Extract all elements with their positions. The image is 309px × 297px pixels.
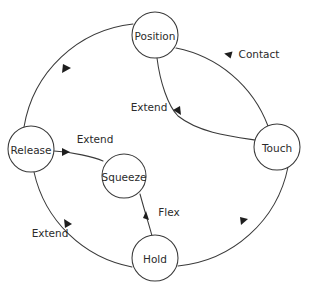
- node-squeeze[interactable]: Squeeze: [102, 154, 147, 198]
- node-position[interactable]: Position: [132, 12, 178, 58]
- node-label-touch: Touch: [261, 142, 292, 154]
- arrowhead-touch-to-position: [173, 106, 181, 115]
- arrowhead-touch-to-hold: [240, 217, 248, 225]
- node-label-squeeze: Squeeze: [102, 171, 147, 183]
- arrowhead-hold-to-squeeze: [143, 211, 149, 220]
- node-label-position: Position: [135, 30, 176, 42]
- node-release[interactable]: Release: [8, 126, 54, 172]
- edge-touch-to-position: [157, 58, 255, 140]
- arrowhead-release-to-position: [62, 64, 71, 73]
- edge-touch-to-hold: [178, 167, 288, 266]
- edge-squeeze-to-release: [54, 151, 103, 161]
- arrowhead-position-to-touch: [224, 50, 233, 58]
- edge-label-extend-squeeze-release: Extend: [77, 133, 114, 145]
- node-label-release: Release: [10, 144, 51, 156]
- edge-label-extend-hold-release: Extend: [32, 227, 69, 239]
- edge-release-to-position: [24, 24, 133, 127]
- node-label-hold: Hold: [143, 253, 167, 265]
- node-touch[interactable]: Touch: [254, 124, 300, 170]
- edge-label-extend-touch-position: Extend: [131, 101, 168, 113]
- node-hold[interactable]: Hold: [132, 235, 178, 281]
- edge-label-flex: Flex: [158, 206, 179, 218]
- edge-label-contact: Contact: [239, 48, 280, 60]
- state-diagram-canvas: Contact Extend Extend Flex Extend Positi…: [0, 0, 309, 297]
- arrowhead-squeeze-to-release: [62, 148, 70, 156]
- state-transition-diagram: Contact Extend Extend Flex Extend Positi…: [0, 0, 309, 297]
